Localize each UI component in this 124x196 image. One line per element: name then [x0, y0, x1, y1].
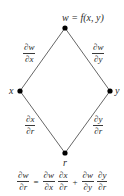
numerator: ∂x: [58, 171, 68, 180]
numerator: ∂w: [23, 43, 35, 52]
equals-sign: =: [32, 177, 39, 187]
numerator: ∂w: [92, 43, 104, 52]
node-top: [62, 25, 67, 30]
numerator: ∂w: [43, 171, 55, 180]
term1-factor2: ∂x ∂r: [58, 171, 68, 192]
node-bottom-label: r: [63, 158, 67, 168]
edge-label-dw-dy: ∂w ∂y: [92, 43, 104, 64]
denominator: ∂r: [97, 183, 107, 192]
node-right: [107, 88, 112, 93]
tree-diagram: [0, 0, 124, 196]
term1-factor1: ∂w ∂x: [43, 171, 55, 192]
edge-label-dw-dx: ∂w ∂x: [23, 43, 35, 64]
numerator: ∂y: [93, 115, 103, 124]
node-right-label: y: [115, 86, 119, 96]
denominator: ∂x: [24, 55, 34, 64]
node-left-label: x: [9, 86, 13, 96]
term2-factor2: ∂y ∂r: [97, 171, 107, 192]
denominator: ∂r: [25, 127, 35, 136]
chain-rule-equation: ∂w ∂r = ∂w ∂x ∂x ∂r + ∂w ∂y ∂y ∂r: [17, 171, 107, 192]
numerator: ∂y: [97, 171, 107, 180]
numerator: ∂x: [25, 115, 35, 124]
node-top-label: w = f(x, y): [62, 13, 104, 23]
denominator: ∂r: [58, 183, 68, 192]
node-bottom: [62, 150, 67, 155]
node-left: [17, 88, 22, 93]
denominator: ∂y: [83, 183, 93, 192]
lhs-fraction: ∂w ∂r: [17, 171, 29, 192]
denominator: ∂y: [93, 55, 103, 64]
denominator: ∂r: [93, 127, 103, 136]
edge-label-dx-dr: ∂x ∂r: [25, 115, 35, 136]
numerator: ∂w: [82, 171, 94, 180]
denominator: ∂r: [18, 183, 28, 192]
plus-sign: +: [71, 177, 78, 187]
term2-factor1: ∂w ∂y: [82, 171, 94, 192]
denominator: ∂x: [44, 183, 54, 192]
numerator: ∂w: [17, 171, 29, 180]
edge-label-dy-dr: ∂y ∂r: [93, 115, 103, 136]
